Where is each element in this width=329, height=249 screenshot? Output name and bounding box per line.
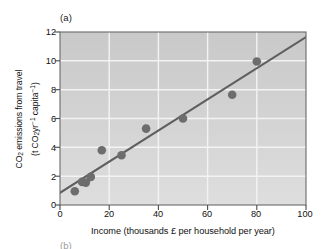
- y-axis-ticks: [55, 32, 60, 205]
- data-point: [71, 187, 80, 196]
- figure-panel-a: (a) CO2 emissions from travel (t CO2yr−1…: [0, 0, 329, 249]
- data-point: [117, 151, 126, 160]
- data-point: [142, 124, 151, 133]
- x-axis-ticks: [60, 205, 306, 210]
- data-point: [98, 146, 107, 155]
- data-point: [179, 114, 188, 123]
- scatter-plot-canvas: [0, 0, 329, 249]
- data-point: [252, 57, 261, 66]
- data-point: [228, 90, 237, 99]
- data-point: [87, 173, 96, 182]
